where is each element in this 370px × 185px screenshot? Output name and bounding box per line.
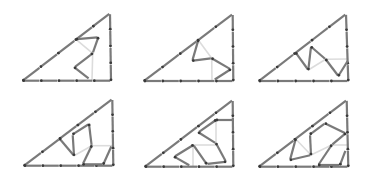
match-head — [311, 125, 314, 128]
match-head — [310, 46, 313, 49]
matchstick — [198, 28, 214, 40]
match-head — [215, 165, 218, 168]
match-head — [111, 130, 114, 133]
matchstick — [346, 15, 347, 30]
match-head — [318, 164, 321, 167]
match-head — [312, 80, 315, 83]
match-head — [179, 52, 182, 55]
matchstick — [93, 38, 98, 52]
match-head — [88, 123, 91, 126]
match-head — [40, 79, 43, 82]
match-head — [197, 165, 200, 168]
match-head — [330, 144, 333, 147]
match-head — [93, 79, 96, 82]
match-head — [59, 164, 62, 167]
match-head — [82, 163, 85, 166]
match-head — [75, 79, 78, 82]
faint-guide-line — [92, 53, 93, 80]
matchstick — [75, 68, 89, 79]
match-head — [232, 45, 235, 48]
matchstick — [23, 68, 39, 80]
match-head — [41, 164, 44, 167]
matchstick — [145, 68, 161, 80]
match-head — [232, 62, 235, 65]
matchstick — [310, 135, 311, 154]
matchstick — [58, 41, 74, 53]
match-head — [295, 52, 298, 55]
matchstick — [277, 55, 293, 67]
match-head — [232, 164, 235, 167]
match-head — [232, 79, 235, 82]
match-head — [58, 138, 61, 141]
match-head — [231, 114, 234, 117]
matchstick — [146, 154, 162, 166]
match-head — [91, 52, 94, 55]
matchstick — [198, 114, 214, 126]
matchstick — [25, 153, 41, 165]
match-head — [214, 119, 217, 122]
match-head — [259, 165, 262, 168]
matchstick — [312, 47, 325, 58]
match-head — [214, 111, 217, 114]
match-head — [39, 65, 42, 68]
matchstick — [194, 146, 206, 164]
match-head — [231, 28, 234, 31]
match-head — [22, 79, 25, 82]
matchstick — [199, 121, 215, 132]
matchstick — [332, 134, 345, 145]
match-head — [162, 151, 165, 154]
matchstick — [93, 14, 109, 26]
matchstick — [348, 65, 349, 80]
matchstick — [308, 48, 310, 70]
match-head — [307, 68, 310, 71]
match-head — [214, 25, 217, 28]
match-head — [276, 165, 279, 168]
match-head — [328, 25, 331, 28]
matchstick — [216, 15, 232, 27]
puzzle-panel-3 — [258, 15, 349, 83]
match-head — [161, 66, 164, 69]
match-head — [346, 131, 349, 134]
match-head — [324, 122, 327, 125]
matchstick — [277, 141, 293, 153]
match-head — [346, 114, 349, 117]
puzzle-panel-4 — [23, 100, 114, 168]
match-head — [76, 124, 79, 127]
match-head — [294, 80, 297, 83]
match-head — [174, 156, 177, 159]
matchstick — [95, 100, 111, 112]
faint-guide-line — [76, 39, 93, 53]
matchstick — [347, 32, 348, 47]
match-head — [211, 57, 214, 60]
matchstick — [41, 54, 57, 66]
matchstick — [215, 70, 230, 80]
match-head — [311, 39, 314, 42]
match-head — [197, 39, 200, 42]
match-head — [310, 153, 313, 156]
matchstick — [212, 59, 229, 69]
match-head — [347, 79, 350, 82]
match-head — [347, 164, 350, 167]
matchstick — [78, 113, 94, 125]
match-head — [205, 162, 208, 165]
puzzle-panel-6 — [258, 101, 349, 169]
matchstick — [326, 124, 345, 133]
match-head — [57, 52, 60, 55]
match-head — [179, 80, 182, 83]
match-head — [276, 80, 279, 83]
faint-guide-line — [296, 139, 311, 155]
match-head — [192, 59, 195, 62]
match-head — [339, 163, 342, 166]
match-head — [215, 143, 218, 146]
match-head — [102, 162, 105, 165]
matchstick — [326, 60, 338, 75]
match-head — [328, 111, 331, 114]
match-head — [232, 148, 235, 151]
match-head — [259, 80, 262, 83]
match-head — [294, 138, 297, 141]
match-head — [197, 80, 200, 83]
match-head — [109, 45, 112, 48]
match-head — [110, 78, 113, 81]
match-head — [325, 59, 328, 62]
match-head — [109, 28, 112, 31]
